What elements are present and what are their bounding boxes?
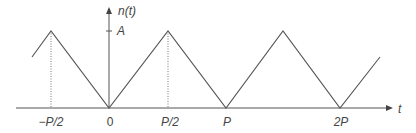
amplitude-label: A [116,24,125,38]
waveform [32,31,380,108]
tick-label-zero: 0 [107,115,114,129]
tick-label-neg-half-period: −P/2 [38,115,63,129]
tick-label-two-period: 2P [333,115,349,129]
t-axis-arrow-icon [386,105,393,111]
triangle-wave-diagram: n(t) A t −P/2 0 P/2 P 2P [0,0,416,133]
n-axis-arrow-icon [106,7,112,14]
tick-label-half-period: P/2 [161,115,179,129]
y-axis-label: n(t) [118,4,136,18]
x-axis-label: t [398,102,402,116]
tick-label-period: P [223,115,231,129]
